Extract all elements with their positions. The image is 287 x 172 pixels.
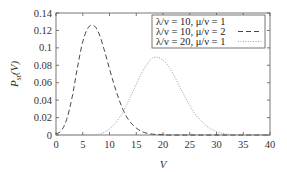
chart: 0510152025303540 00.020.040.060.080.10.1… <box>0 0 287 172</box>
y-tick-label: 0.02 <box>34 112 52 123</box>
x-tick-label: 15 <box>131 139 142 150</box>
series-line-2 <box>56 57 270 135</box>
y-axis-label-arg: (V) <box>8 61 21 75</box>
y-tick-label: 0.1 <box>39 42 52 53</box>
y-tick-label: 0.12 <box>34 25 52 36</box>
x-tick-label: 20 <box>158 139 169 150</box>
x-tick-label: 35 <box>238 139 249 150</box>
y-tick-label: 0.14 <box>34 8 53 19</box>
x-tick-label: 5 <box>80 139 85 150</box>
legend-entry-label: λ/ν = 20, μ/ν = 1 <box>156 36 225 47</box>
y-tick-label: 0.06 <box>34 77 52 88</box>
x-tick-label: 0 <box>53 139 58 150</box>
legend: λ/ν = 10, μ/ν = 1λ/ν = 10, μ/ν = 2λ/ν = … <box>152 15 265 48</box>
x-tick-label: 10 <box>104 139 115 150</box>
y-axis-label: Pst(V) <box>8 61 23 88</box>
y-tick-label: 0 <box>47 130 52 141</box>
y-tick-label: 0.08 <box>34 60 52 71</box>
x-tick-label: 25 <box>185 139 196 150</box>
x-axis-label: V <box>160 158 168 170</box>
x-tick-label: 40 <box>265 139 276 150</box>
y-tick-label: 0.04 <box>34 95 53 106</box>
x-tick-label: 30 <box>211 139 222 150</box>
